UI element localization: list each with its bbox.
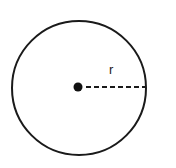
- radius-label: r: [109, 63, 113, 76]
- diagram-svg: [0, 0, 176, 168]
- center-point-dot: [74, 83, 83, 92]
- circle-radius-diagram: r: [0, 0, 176, 168]
